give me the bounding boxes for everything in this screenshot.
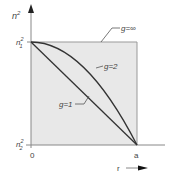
label-g-2: g=2 [104,62,118,71]
r-arrow-icon [138,166,148,171]
x-axis-label: r [117,164,120,173]
y-tick-top-label: n21 [16,36,24,49]
x-end-label: a [134,151,139,160]
y-axis-arrow-icon [28,4,34,13]
x-origin-label: 0 [30,151,35,160]
refractive-index-profile-diagram: n2 n21 n22 0 a r g=∞ g=2 g=1 [0,0,188,183]
label-g-1: g=1 [59,100,73,109]
y-axis-label: n2 [12,10,21,21]
label-g-infinity: g=∞ [121,24,136,33]
y-tick-bottom-label: n22 [16,138,24,151]
